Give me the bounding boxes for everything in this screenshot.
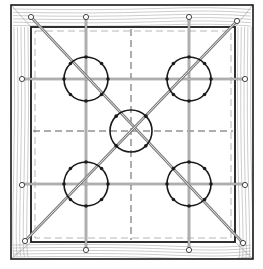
hoop-clip xyxy=(144,114,148,118)
hoop-clip xyxy=(114,144,118,148)
hoop-clip xyxy=(187,204,191,208)
hoop-clip xyxy=(172,198,176,202)
hoop-clip xyxy=(84,204,88,208)
hoop-clip xyxy=(172,62,176,66)
hoop-clip xyxy=(69,62,73,66)
rod-end-knob xyxy=(19,76,24,81)
hoop-clip xyxy=(203,167,207,171)
hoop-clip xyxy=(172,93,176,97)
hoop-clip xyxy=(187,99,191,103)
hoop-clip xyxy=(100,62,104,66)
hoop-clip xyxy=(203,93,207,97)
hoop-clip xyxy=(187,160,191,164)
hoop-clip xyxy=(165,77,169,81)
rod-end-knob xyxy=(234,18,239,23)
rod-end-knob xyxy=(83,247,88,252)
rod-end-knob xyxy=(242,76,247,81)
hoop-clip xyxy=(84,55,88,59)
rod-end-knob xyxy=(242,182,247,187)
hoop-clip xyxy=(203,198,207,202)
inner-opening xyxy=(31,27,235,242)
diagram-canvas xyxy=(0,0,263,269)
frame-diagram xyxy=(0,0,263,269)
hoop-clip xyxy=(209,77,213,81)
hoop-clip xyxy=(62,77,66,81)
hoop-clip xyxy=(84,99,88,103)
hoop-clip xyxy=(69,167,73,171)
hoop-clip xyxy=(106,77,110,81)
rod-end-knob xyxy=(22,238,27,243)
hoop-clip xyxy=(172,167,176,171)
rod-end-knob xyxy=(186,14,191,19)
rod-end-knob xyxy=(28,14,33,19)
hoop-clip xyxy=(203,62,207,66)
hoop-clip xyxy=(144,144,148,148)
hoop-clip xyxy=(106,182,110,186)
hoop-clip xyxy=(100,93,104,97)
hoop-clip xyxy=(100,167,104,171)
hoop-clip xyxy=(100,198,104,202)
hoop-clip xyxy=(62,182,66,186)
hoop-clip xyxy=(165,182,169,186)
rod-end-knob xyxy=(240,240,245,245)
hoop-clip xyxy=(69,198,73,202)
hoop-clip xyxy=(114,114,118,118)
rod-end-knob xyxy=(186,247,191,252)
hoop-clip xyxy=(69,93,73,97)
rod-end-knob xyxy=(83,14,88,19)
rod-end-knob xyxy=(19,182,24,187)
hoop-clip xyxy=(209,182,213,186)
hoop-clip xyxy=(84,160,88,164)
hoop-clip xyxy=(187,55,191,59)
